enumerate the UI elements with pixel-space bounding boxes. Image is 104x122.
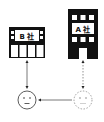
connector-b-to-person bbox=[26, 60, 29, 89]
connector-a-to-person bbox=[82, 60, 85, 89]
person-left-face-icon bbox=[18, 91, 36, 109]
building-a-label: A 社 bbox=[76, 25, 91, 34]
diagram-canvas: B 社 A 社 bbox=[0, 0, 104, 122]
person-right-face-icon bbox=[74, 91, 92, 109]
building-b: B 社 bbox=[9, 27, 45, 58]
building-a: A 社 bbox=[68, 9, 98, 59]
connector-person-to-person bbox=[38, 99, 72, 102]
building-a-door bbox=[79, 48, 87, 59]
building-b-label: B 社 bbox=[20, 32, 35, 41]
